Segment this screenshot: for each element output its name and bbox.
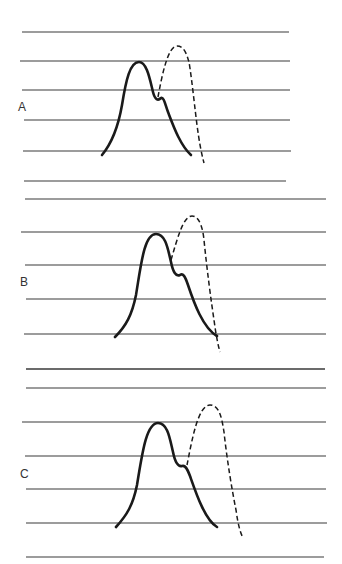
solid-curve-c <box>116 423 217 527</box>
panel-b <box>21 199 326 369</box>
panel-label-a: A <box>18 101 26 113</box>
dashed-curve-c <box>187 405 243 538</box>
panel-a <box>20 32 291 181</box>
panel-label-b: B <box>20 276 28 288</box>
solid-curve-a <box>102 62 191 155</box>
figure-canvas <box>0 0 342 564</box>
panel-c <box>22 369 327 557</box>
solid-curve-b <box>115 234 217 337</box>
chromatogram-figure: A B C <box>0 0 342 564</box>
panel-label-c: C <box>20 468 29 480</box>
